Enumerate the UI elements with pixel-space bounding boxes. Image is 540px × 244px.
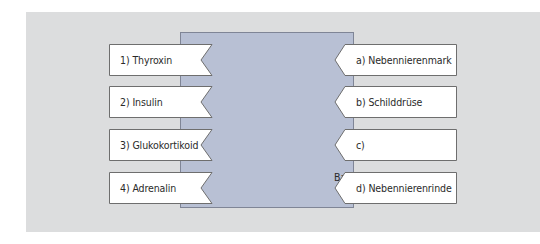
hormone-label-1[interactable]: 1) Thyroxin bbox=[109, 44, 213, 76]
hormone-label-text: 4) Adrenalin bbox=[109, 182, 176, 194]
gland-label-text: a) Nebennierenmark bbox=[334, 54, 452, 66]
hormone-label-4[interactable]: 4) Adrenalin bbox=[109, 172, 213, 204]
gland-label-b[interactable]: b) Schilddrüse bbox=[334, 86, 457, 118]
hormone-label-text: 1) Thyroxin bbox=[109, 54, 172, 66]
hormone-label-text: 3) Glukokortikoid bbox=[109, 139, 198, 151]
hormone-label-2[interactable]: 2) Insulin bbox=[109, 86, 213, 118]
gland-label-text: b) Schilddrüse bbox=[334, 96, 422, 108]
hormone-label-3[interactable]: 3) Glukokortikoid bbox=[109, 129, 213, 161]
hormone-label-text: 2) Insulin bbox=[109, 96, 163, 108]
gland-label-text: d) Nebennierenrinde bbox=[334, 182, 452, 194]
gland-label-c[interactable]: c) Bauchspeicheldrüse bbox=[334, 129, 457, 161]
gland-label-a[interactable]: a) Nebennierenmark bbox=[334, 44, 457, 76]
gland-label-d[interactable]: d) Nebennierenrinde bbox=[334, 172, 457, 204]
